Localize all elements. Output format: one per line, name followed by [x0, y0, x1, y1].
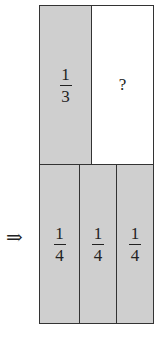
fraction-bar [92, 244, 104, 245]
numerator: 1 [55, 225, 64, 242]
fraction-bar [54, 244, 66, 245]
top-right-cell: ? [91, 5, 154, 165]
fraction-bar [60, 85, 72, 86]
numerator: 1 [61, 66, 70, 83]
numerator: 1 [94, 225, 103, 242]
denominator: 4 [55, 247, 64, 264]
denominator: 3 [61, 88, 70, 105]
fraction-one-quarter: 1 4 [54, 225, 66, 264]
fraction-one-quarter: 1 4 [92, 225, 104, 264]
implies-arrow-icon: ⇒ [6, 227, 23, 247]
denominator: 4 [131, 247, 140, 264]
bottom-cell-3: 1 4 [116, 164, 154, 324]
numerator: 1 [131, 225, 140, 242]
fraction-one-third: 1 3 [60, 66, 72, 105]
top-left-cell: 1 3 [39, 5, 92, 165]
denominator: 4 [94, 247, 103, 264]
fraction-bar [129, 244, 141, 245]
unknown-label: ? [119, 75, 127, 95]
fraction-one-quarter: 1 4 [129, 225, 141, 264]
bottom-cell-2: 1 4 [79, 164, 117, 324]
bottom-cell-1: 1 4 [39, 164, 80, 324]
